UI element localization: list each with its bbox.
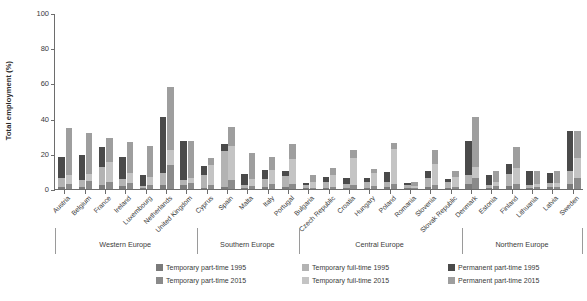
bar-segment bbox=[221, 151, 227, 187]
bar bbox=[282, 171, 288, 189]
bar bbox=[269, 157, 275, 189]
bar-segment bbox=[188, 141, 194, 178]
bar bbox=[140, 175, 146, 189]
bar-segment bbox=[574, 158, 580, 177]
country-bar-group bbox=[99, 14, 113, 189]
bar-segment bbox=[330, 168, 336, 175]
country-bar-group bbox=[119, 14, 133, 189]
country-bar-group bbox=[262, 14, 276, 189]
bar-segment bbox=[404, 188, 410, 189]
legend-item[interactable]: Temporary part-time 2015 bbox=[156, 277, 293, 284]
bar bbox=[303, 183, 309, 189]
x-tick-label: Portugal bbox=[273, 195, 296, 218]
legend-item[interactable]: Permanent part-time 2015 bbox=[448, 277, 539, 284]
bar-segment bbox=[86, 174, 92, 181]
bar-segment bbox=[432, 150, 438, 164]
bar-segment bbox=[330, 187, 336, 189]
bar bbox=[364, 178, 370, 189]
region-separator bbox=[299, 228, 300, 254]
bar bbox=[119, 157, 125, 189]
x-tick-mark bbox=[573, 190, 574, 194]
bar-segment bbox=[119, 179, 125, 186]
bar-segment bbox=[547, 173, 553, 184]
bar-segment bbox=[432, 164, 438, 184]
bar bbox=[330, 168, 336, 189]
bar-segment bbox=[425, 171, 431, 178]
bar-segment bbox=[208, 165, 214, 185]
x-tick-label: Hungary bbox=[354, 195, 377, 218]
x-tick-mark bbox=[308, 190, 309, 194]
country-bar-group bbox=[140, 14, 154, 189]
bar-segment bbox=[221, 144, 227, 151]
country-bar-group bbox=[58, 14, 72, 189]
region-separator bbox=[582, 228, 583, 254]
bar bbox=[167, 87, 173, 189]
region-label: Western Europe bbox=[99, 241, 151, 248]
bar-segment bbox=[384, 172, 390, 182]
country-bar-group bbox=[384, 14, 398, 189]
chart-legend: Temporary part-time 1995Temporary full-t… bbox=[156, 262, 576, 294]
bar-segment bbox=[526, 171, 532, 184]
country-bar-group bbox=[343, 14, 357, 189]
x-tick-mark bbox=[227, 190, 228, 194]
bar bbox=[493, 171, 499, 189]
bar-segment bbox=[364, 188, 370, 189]
bar-segment bbox=[58, 157, 64, 178]
legend-item[interactable]: Temporary part-time 1995 bbox=[156, 264, 293, 271]
bar-segment bbox=[160, 117, 166, 172]
legend-swatch-icon bbox=[448, 264, 455, 271]
bar-segment bbox=[567, 131, 573, 171]
bar-segment bbox=[99, 167, 105, 185]
bar-segment bbox=[99, 147, 105, 167]
bar-segment bbox=[574, 131, 580, 158]
legend-item[interactable]: Temporary full-time 2015 bbox=[302, 277, 439, 284]
x-tick-label: Spain bbox=[218, 195, 235, 212]
bar bbox=[371, 169, 377, 189]
bar-segment bbox=[241, 174, 247, 185]
bar-segment bbox=[208, 158, 214, 165]
bar-segment bbox=[228, 127, 234, 146]
bar-segment bbox=[445, 188, 451, 189]
legend-item[interactable]: Temporary full-time 1995 bbox=[302, 264, 439, 271]
bar bbox=[58, 157, 64, 189]
legend-swatch-icon bbox=[156, 277, 163, 284]
legend-item[interactable]: Permanent part-time 1995 bbox=[448, 264, 539, 271]
legend-label: Permanent part-time 2015 bbox=[458, 277, 539, 284]
bar-segment bbox=[289, 159, 295, 184]
bar bbox=[86, 133, 92, 189]
bar-segment bbox=[86, 181, 92, 189]
bar-segment bbox=[486, 175, 492, 186]
bar bbox=[147, 146, 153, 189]
bar-segment bbox=[289, 184, 295, 189]
bar-segment bbox=[180, 185, 186, 189]
y-tick-label: 0 bbox=[29, 186, 49, 194]
bar-segment bbox=[106, 162, 112, 181]
country-bar-group bbox=[79, 14, 93, 189]
bar bbox=[343, 178, 349, 189]
bar-segment bbox=[384, 187, 390, 189]
x-tick-mark bbox=[105, 190, 106, 194]
legend-row: Temporary part-time 2015Temporary full-t… bbox=[156, 275, 548, 285]
x-tick-label: Austria bbox=[52, 195, 72, 215]
region-separator bbox=[462, 228, 463, 254]
bar-segment bbox=[58, 187, 64, 189]
country-bar-group bbox=[486, 14, 500, 189]
bar bbox=[79, 155, 85, 189]
bar bbox=[404, 183, 410, 190]
country-bar-group bbox=[404, 14, 418, 189]
bar bbox=[188, 141, 194, 189]
bar-segment bbox=[249, 179, 255, 186]
country-bar-group bbox=[160, 14, 174, 189]
bar-segment bbox=[350, 150, 356, 158]
bar bbox=[534, 171, 540, 189]
bar bbox=[513, 147, 519, 189]
bar-segment bbox=[371, 186, 377, 189]
bar-segment bbox=[574, 178, 580, 189]
x-tick-mark bbox=[410, 190, 411, 194]
bar-segment bbox=[160, 185, 166, 189]
bar bbox=[486, 175, 492, 189]
bar-segment bbox=[343, 188, 349, 189]
country-bar-group bbox=[425, 14, 439, 189]
y-tick-label: 20 bbox=[29, 151, 49, 159]
bar-segment bbox=[208, 185, 214, 189]
